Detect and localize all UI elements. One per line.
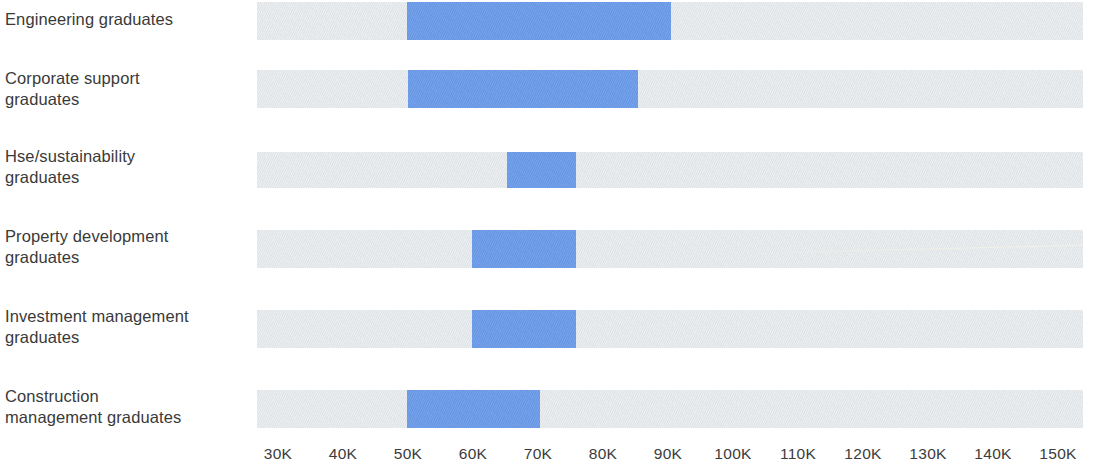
row-track-hse-sustainability [257,152,1083,188]
range-bar-chart: Engineering graduates Corporate support … [0,0,1098,467]
axis-tick: 110K [780,443,816,465]
track-texture [257,310,1083,348]
chart-row: Corporate support graduates [0,70,1098,150]
axis-tick: 80K [589,443,617,465]
row-track-investment-management [257,310,1083,348]
axis-tick: 60K [459,443,487,465]
track-texture [257,390,1083,428]
track-texture [257,152,1083,188]
row-bar-hse-sustainability[interactable] [507,152,576,188]
chart-row: Hse/sustainability graduates [0,150,1098,230]
track-texture [257,70,1083,108]
row-track-construction-management [257,390,1083,428]
row-label-construction-management: Construction management graduates [5,386,245,428]
chart-row: Property development graduates [0,230,1098,310]
axis-tick: 40K [329,443,357,465]
row-label-corporate-support: Corporate support graduates [5,68,245,110]
row-track-corporate-support [257,70,1083,108]
axis-tick: 70K [524,443,552,465]
axis-tick: 90K [654,443,682,465]
track-texture [257,230,1083,268]
row-label-engineering: Engineering graduates [5,9,245,30]
axis-tick: 140K [974,443,1011,465]
axis-tick: 100K [714,443,751,465]
row-bar-corporate-support[interactable] [408,70,638,108]
row-track-property-development [257,230,1083,268]
axis-tick: 150K [1039,443,1076,465]
row-label-hse-sustainability: Hse/sustainability graduates [5,146,245,188]
row-label-property-development: Property development graduates [5,226,245,268]
axis-tick: 130K [909,443,946,465]
row-track-engineering [257,2,1083,40]
row-bar-engineering[interactable] [407,2,671,40]
axis-tick: 120K [844,443,881,465]
row-bar-property-development[interactable] [472,230,576,268]
x-axis: 30K 40K 50K 60K 70K 80K 90K 100K 110K 12… [257,443,1083,467]
axis-tick: 50K [394,443,422,465]
row-label-investment-management: Investment management graduates [5,306,245,348]
axis-tick: 30K [264,443,292,465]
chart-row: Investment management graduates [0,310,1098,390]
chart-rows: Engineering graduates Corporate support … [0,0,1098,432]
chart-row: Construction management graduates [0,390,1098,432]
row-bar-investment-management[interactable] [472,310,576,348]
row-bar-construction-management[interactable] [407,390,540,428]
chart-row: Engineering graduates [0,0,1098,70]
